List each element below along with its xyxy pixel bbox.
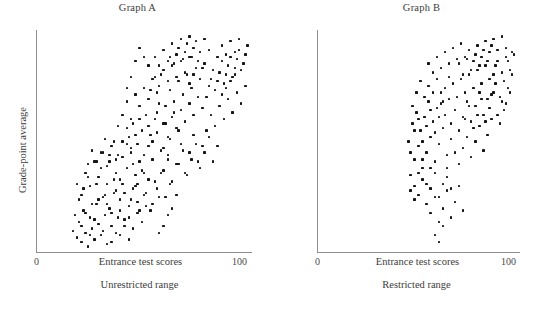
scatter-point <box>229 80 231 82</box>
scatter-point <box>223 82 225 84</box>
scatter-point <box>87 245 89 247</box>
scatter-point <box>490 44 492 46</box>
scatter-point <box>95 160 97 162</box>
scatter-point <box>507 87 509 89</box>
scatter-point <box>246 44 248 46</box>
graph-panel-a: Graph A Grade-point average 0 100 Entran… <box>0 0 275 311</box>
scatter-point <box>419 129 421 131</box>
scatter-point <box>425 125 427 127</box>
scatter-point <box>197 96 199 98</box>
scatter-point <box>236 58 238 60</box>
scatter-point <box>429 109 431 111</box>
scatter-point <box>488 107 490 109</box>
scatter-point <box>167 154 169 156</box>
scatter-point <box>115 158 117 160</box>
scatter-point <box>434 234 436 236</box>
scatter-point <box>143 172 145 174</box>
scatter-point <box>104 214 106 216</box>
scatter-point <box>160 172 162 174</box>
scatter-point <box>482 114 484 116</box>
scatter-point <box>460 42 462 44</box>
scatter-point <box>478 64 480 66</box>
scatter-point <box>171 207 173 209</box>
scatter-point <box>89 216 91 218</box>
scatter-point <box>100 151 102 153</box>
scatter-point <box>162 147 164 149</box>
scatter-point <box>472 87 474 89</box>
scatter-point <box>188 102 190 104</box>
scatter-point <box>147 178 149 180</box>
scatter-point <box>438 221 440 223</box>
scatter-point <box>149 89 151 91</box>
scatter-point <box>488 78 490 80</box>
scatter-point <box>130 151 132 153</box>
scatter-point <box>91 203 93 205</box>
scatter-point <box>199 51 201 53</box>
scatter-point <box>145 114 147 116</box>
scatter-point <box>444 51 446 53</box>
scatter-point <box>173 111 175 113</box>
scatter-point <box>158 85 160 87</box>
scatter-point <box>434 172 436 174</box>
scatter-point <box>454 109 456 111</box>
scatter-point <box>413 129 415 131</box>
scatter-point <box>212 160 214 162</box>
scatter-point <box>442 207 444 209</box>
scatter-point <box>117 154 119 156</box>
scatter-point <box>203 62 205 64</box>
scatter-point <box>484 40 486 42</box>
scatter-point <box>192 134 194 136</box>
scatter-point <box>452 82 454 84</box>
scatter-point <box>145 205 147 207</box>
scatter-point <box>417 194 419 196</box>
scatter-point <box>119 234 121 236</box>
scatter-point <box>409 174 411 176</box>
scatter-point <box>231 111 233 113</box>
scatter-point <box>76 183 78 185</box>
scatter-point <box>154 76 156 78</box>
scatter-point <box>513 53 515 55</box>
scatter-point <box>482 149 484 151</box>
scatter-point <box>151 203 153 205</box>
scatter-point <box>123 218 125 220</box>
scatter-point <box>464 118 466 120</box>
scatter-point <box>195 67 197 69</box>
scatter-point <box>156 111 158 113</box>
scatter-point <box>134 185 136 187</box>
scatter-point <box>162 122 164 124</box>
scatter-point <box>138 160 140 162</box>
scatter-point <box>415 111 417 113</box>
scatter-point <box>177 129 179 131</box>
scatter-point <box>468 105 470 107</box>
scatter-point <box>132 122 134 124</box>
scatter-point <box>236 91 238 93</box>
scatter-point <box>184 120 186 122</box>
scatter-point <box>138 209 140 211</box>
scatter-point <box>492 91 494 93</box>
graph-b-title: Graph B <box>275 2 550 13</box>
scatter-point <box>499 96 501 98</box>
scatter-point <box>106 243 108 245</box>
scatter-point <box>149 134 151 136</box>
scatter-point <box>227 64 229 66</box>
scatter-point <box>141 129 143 131</box>
scatter-point <box>192 73 194 75</box>
scatter-point <box>450 216 452 218</box>
scatter-point <box>470 69 472 71</box>
scatter-point <box>171 116 173 118</box>
scatter-point <box>89 185 91 187</box>
scatter-point <box>446 167 448 169</box>
scatter-point <box>141 169 143 171</box>
scatter-point <box>169 89 171 91</box>
scatter-point <box>454 201 456 203</box>
scatter-point <box>496 49 498 51</box>
scatter-point <box>474 140 476 142</box>
scatter-point <box>234 51 236 53</box>
graph-a-scatter-points <box>36 30 252 253</box>
scatter-point <box>84 172 86 174</box>
scatter-point <box>456 58 458 60</box>
scatter-point <box>462 147 464 149</box>
scatter-point <box>470 120 472 122</box>
scatter-point <box>225 87 227 89</box>
scatter-point <box>242 62 244 64</box>
